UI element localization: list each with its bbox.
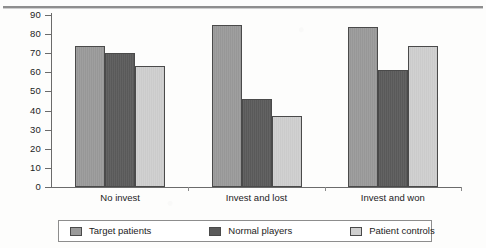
x-axis-tick xyxy=(188,187,189,191)
y-axis-tick xyxy=(45,34,51,35)
legend-label-patient-controls: Patient controls xyxy=(369,226,434,236)
y-axis-tick xyxy=(45,168,51,169)
y-axis-tick xyxy=(45,15,51,16)
y-axis-tick-label: 20 xyxy=(0,144,41,154)
legend-item-target-patients: Target patients xyxy=(70,221,151,241)
y-axis-tick-label: 10 xyxy=(0,163,41,173)
y-axis-tick-label: 90 xyxy=(0,10,41,20)
y-axis-line xyxy=(51,13,52,188)
chart-legend: Target patients Normal players Patient c… xyxy=(58,220,432,242)
y-axis-tick-label: 40 xyxy=(0,106,41,116)
bar-no-invest-normal-players xyxy=(105,53,135,187)
y-axis-tick xyxy=(45,91,51,92)
legend-label-target-patients: Target patients xyxy=(89,226,151,236)
y-axis-tick xyxy=(45,130,51,131)
bar-no-invest-target-patients xyxy=(75,46,105,187)
y-axis-tick xyxy=(45,53,51,54)
bar-invest-and-lost-normal-players xyxy=(242,99,272,187)
x-axis-tick xyxy=(325,187,326,191)
y-axis-tick-label: 30 xyxy=(0,125,41,135)
y-axis-tick xyxy=(45,187,51,188)
y-axis-tick xyxy=(45,149,51,150)
y-axis-tick-label: 50 xyxy=(0,86,41,96)
legend-swatch-patient-controls xyxy=(350,227,362,236)
y-axis-tick xyxy=(45,72,51,73)
bar-no-invest-patient-controls xyxy=(135,66,165,187)
legend-label-normal-players: Normal players xyxy=(228,226,292,236)
bar-invest-and-won-patient-controls xyxy=(408,46,438,187)
legend-swatch-normal-players xyxy=(209,227,221,236)
legend-item-patient-controls: Patient controls xyxy=(350,221,434,241)
bar-invest-and-lost-target-patients xyxy=(212,25,242,187)
bar-invest-and-won-target-patients xyxy=(348,27,378,187)
y-axis-tick-label: 60 xyxy=(0,67,41,77)
bar-invest-and-lost-patient-controls xyxy=(272,116,302,187)
y-axis-tick xyxy=(45,111,51,112)
bar-chart-plot: 0102030405060708090 No investInvest and … xyxy=(0,0,486,248)
x-axis-category-label: No invest xyxy=(52,192,188,203)
y-axis-tick-label: 70 xyxy=(0,48,41,58)
y-axis-tick-label: 0 xyxy=(0,182,41,192)
x-axis-category-label: Invest and won xyxy=(325,192,461,203)
bar-invest-and-won-normal-players xyxy=(378,70,408,187)
y-axis-tick-label: 80 xyxy=(0,29,41,39)
x-axis-category-label: Invest and lost xyxy=(188,192,324,203)
x-axis-line xyxy=(51,187,461,188)
x-axis-tick-end xyxy=(461,187,462,191)
legend-item-normal-players: Normal players xyxy=(209,221,292,241)
figure-canvas: 0102030405060708090 No investInvest and … xyxy=(0,0,486,248)
legend-swatch-target-patients xyxy=(70,227,82,236)
